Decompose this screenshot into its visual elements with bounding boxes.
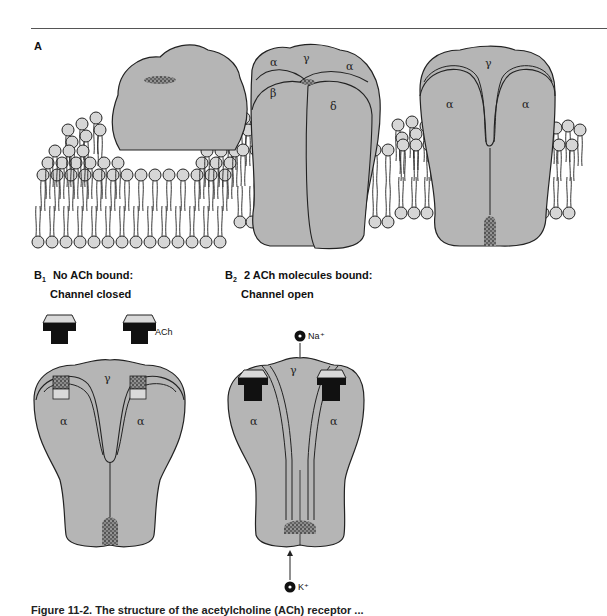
- alpha-label-left: α: [60, 415, 68, 428]
- gamma-label: γ: [290, 364, 297, 377]
- receptor-subunit-view: α γ α β δ: [251, 44, 380, 248]
- receptor-cutaway-view: γ α α: [420, 46, 555, 246]
- ach-molecule-free-left: [43, 315, 76, 344]
- pore-opening-stipple: [301, 79, 315, 85]
- gamma-label: γ: [104, 372, 111, 385]
- receptor-top-view: [112, 45, 247, 150]
- binding-site-left: [53, 376, 69, 389]
- gate-stipple: [102, 517, 118, 545]
- gamma-label: γ: [485, 57, 492, 70]
- ach-label: ACh: [155, 327, 173, 337]
- beta-label: β: [270, 87, 276, 100]
- gamma-label: γ: [303, 52, 310, 65]
- receptor-open: γ α α: [228, 358, 364, 547]
- binding-site-right: [130, 376, 146, 389]
- potassium-label: K⁺: [298, 582, 309, 592]
- alpha-label-left: α: [250, 415, 258, 428]
- alpha-label-left: α: [270, 56, 278, 69]
- delta-label: δ: [330, 100, 337, 113]
- receptor-closed: γ α α: [34, 359, 185, 546]
- sodium-label: Na⁺: [308, 331, 325, 341]
- alpha-label-right: α: [330, 415, 338, 428]
- alpha-label-left: α: [446, 98, 454, 111]
- gate-stipple: [284, 521, 316, 535]
- lipid-upper-left: [37, 145, 241, 211]
- gate-stipple: [484, 216, 496, 246]
- figure-caption: Figure 11-2. The structure of the acetyl…: [31, 604, 364, 616]
- alpha-label-right: α: [346, 60, 354, 73]
- ach-molecule-free-right: ACh: [123, 315, 173, 344]
- pore-opening-stipple: [144, 76, 176, 84]
- alpha-label-right: α: [137, 415, 145, 428]
- lipid-lower-left: [32, 206, 226, 248]
- potassium-ion: K⁺: [285, 550, 310, 593]
- alpha-label-right: α: [522, 98, 530, 111]
